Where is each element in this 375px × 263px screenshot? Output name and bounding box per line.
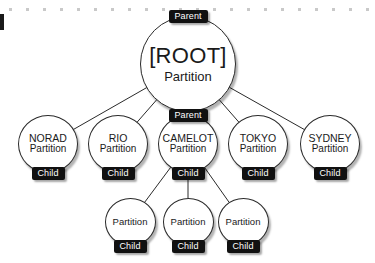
node-type-label: Partition (312, 144, 349, 155)
child-badge[interactable]: Child (172, 167, 205, 180)
node-type-label: Partition (30, 144, 67, 155)
parent-badge[interactable]: Parent (169, 109, 208, 122)
child-badge[interactable]: Child (102, 167, 135, 180)
node-circle[interactable]: SYDNEYPartition (300, 115, 360, 173)
child-badge[interactable]: Child (114, 240, 147, 253)
tree-node-tokyo[interactable]: TOKYOPartition (228, 115, 288, 173)
node-circle[interactable]: Partition (105, 198, 156, 246)
node-circle[interactable]: Partition (218, 198, 269, 246)
child-badge[interactable]: Child (172, 240, 205, 253)
node-type-label: Partition (226, 217, 261, 227)
node-circle[interactable]: NORADPartition (18, 115, 78, 173)
node-type-label: Partition (171, 217, 206, 227)
diagram-canvas: [ROOT]PartitionParentNORADPartitionChild… (0, 0, 375, 263)
tree-node-norad[interactable]: NORADPartition (18, 115, 78, 173)
child-badge[interactable]: Child (314, 167, 347, 180)
node-type-label: Partition (100, 144, 137, 155)
child-badge[interactable]: Child (242, 167, 275, 180)
node-type-label: Partition (240, 144, 277, 155)
tree-node-root[interactable]: [ROOT]Partition (140, 16, 236, 112)
node-name: [ROOT] (149, 44, 227, 68)
node-type-label: Partition (164, 70, 212, 84)
node-circle[interactable]: [ROOT]Partition (140, 16, 236, 112)
node-circle[interactable]: CAMELOTPartition (158, 115, 218, 173)
node-circle[interactable]: Partition (163, 198, 214, 246)
tree-node-leaf3[interactable]: Partition (218, 198, 269, 246)
node-circle[interactable]: TOKYOPartition (228, 115, 288, 173)
node-circle[interactable]: RIOPartition (88, 115, 148, 173)
parent-badge[interactable]: Parent (169, 10, 208, 23)
tree-node-leaf2[interactable]: Partition (163, 198, 214, 246)
tree-node-rio[interactable]: RIOPartition (88, 115, 148, 173)
child-badge[interactable]: Child (32, 167, 65, 180)
tree-node-sydney[interactable]: SYDNEYPartition (300, 115, 360, 173)
tree-node-leaf1[interactable]: Partition (105, 198, 156, 246)
node-type-label: Partition (113, 217, 148, 227)
node-type-label: Partition (170, 144, 207, 155)
child-badge[interactable]: Child (227, 240, 260, 253)
tree-node-camelot[interactable]: CAMELOTPartition (158, 115, 218, 173)
